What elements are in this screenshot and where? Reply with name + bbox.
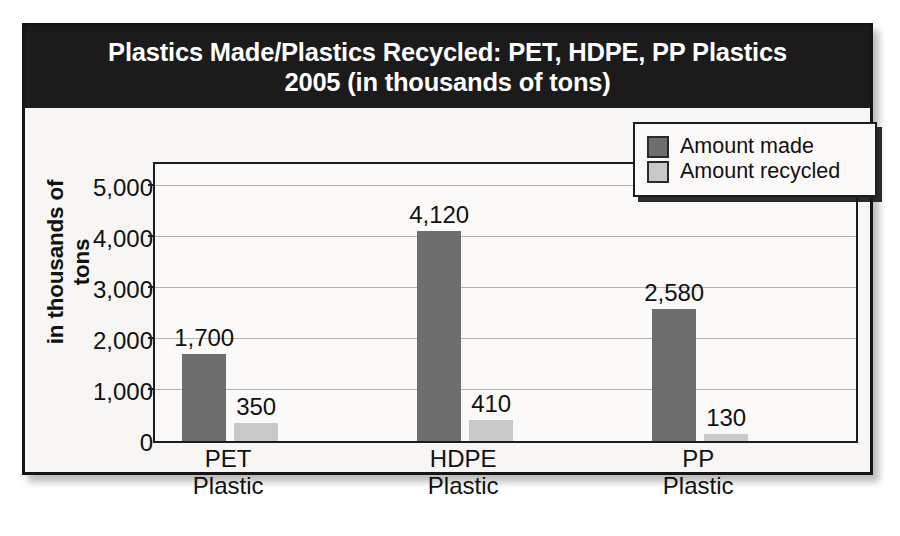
y-axis-tick [148,184,155,186]
bar-amount-recycled[interactable] [234,423,278,441]
x-axis-category-label: PP Plastic [663,446,734,500]
chart-body: in thousands of tons 01,0002,0003,0004,0… [25,108,870,472]
y-axis-tick [148,337,155,339]
legend-item[interactable]: Amount made [647,136,863,158]
y-axis-tick-label: 0 [140,431,153,455]
bar-amount-made[interactable] [417,231,461,441]
chart-title-banner: Plastics Made/Plastics Recycled: PET, HD… [25,26,870,108]
legend-swatch-icon [647,136,669,158]
bar-value-label: 4,120 [409,203,469,227]
y-axis-tick [148,286,155,288]
x-axis-category-label: PET Plastic [193,446,264,500]
legend-item[interactable]: Amount recycled [647,161,863,183]
y-axis-tick-labels: 01,0002,0003,0004,0005,000 [61,108,153,472]
y-axis-tick-label: 5,000 [93,176,153,200]
bar-value-label: 2,580 [644,281,704,305]
bar-amount-recycled[interactable] [469,420,513,441]
y-axis-tick [148,235,155,237]
bar-amount-made[interactable] [182,354,226,441]
bar-value-label: 410 [471,392,511,416]
bar-value-label: 1,700 [174,326,234,350]
y-axis-tick-label: 2,000 [93,329,153,353]
bar-amount-recycled[interactable] [704,434,748,441]
chart-legend: Amount madeAmount recycled [633,122,877,197]
chart-figure-frame: Plastics Made/Plastics Recycled: PET, HD… [22,23,873,475]
legend-label: Amount made [680,136,814,158]
y-axis-tick [148,388,155,390]
gridline [155,236,856,237]
x-axis-tick-labels: PET PlasticHDPE PlasticPP Plastic [153,446,858,516]
gridline [155,287,856,288]
page-title: Plastics Made/Plastics Recycled: PET, HD… [108,37,787,97]
x-axis-category-label: HDPE Plastic [428,446,499,500]
bar-value-label: 350 [236,395,276,419]
y-axis-tick-label: 4,000 [93,227,153,251]
y-axis-tick-label: 1,000 [93,380,153,404]
bar-value-label: 130 [706,406,746,430]
gridline [155,338,856,339]
plot-area: 1,7003504,1204102,580130 [153,162,858,443]
bar-amount-made[interactable] [652,309,696,441]
y-axis-tick-label: 3,000 [93,278,153,302]
legend-swatch-icon [647,161,669,183]
legend-label: Amount recycled [680,161,840,183]
